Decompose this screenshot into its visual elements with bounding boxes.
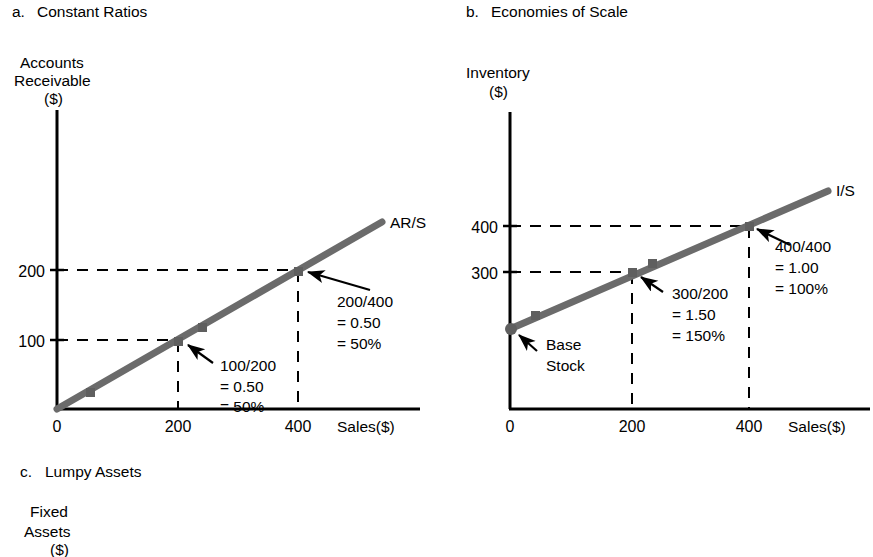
- panel-a-y-axis-title-line2: Receivable: [14, 72, 91, 89]
- panel-b: b. Economies of Scale Inventory ($) 400 …: [466, 3, 870, 435]
- panel-b-annot1-line1: 300/200: [672, 285, 728, 302]
- panel-b-annot1-line2: = 1.50: [672, 306, 716, 323]
- panel-a-annot1-line3: = 50%: [220, 398, 265, 415]
- panel-b-annotation-ratio-at-400: 400/400 = 1.00 = 100%: [775, 238, 831, 297]
- panel-b-y-axis-title-line2: ($): [489, 83, 508, 100]
- panel-a-ylabel-200: 200: [18, 263, 45, 280]
- panel-a-ylabel-100: 100: [18, 333, 45, 350]
- panel-b-marker-4: [745, 222, 754, 231]
- panel-a-annot2-line2: = 0.50: [337, 314, 381, 331]
- panel-a-title: Constant Ratios: [37, 3, 148, 20]
- panel-b-label: b.: [466, 3, 479, 20]
- panel-b-base-stock-line1: Base: [546, 336, 581, 353]
- panel-a: a. Constant Ratios Accounts Receivable (…: [12, 3, 426, 435]
- panel-a-xlabel-200: 200: [165, 418, 192, 435]
- panel-a-annotation-ratio-at-200: 100/200 = 0.50 = 50%: [220, 357, 276, 415]
- panel-b-xlabel-400: 400: [736, 418, 763, 435]
- panel-b-series-label: I/S: [836, 182, 855, 199]
- panel-a-series-label: AR/S: [390, 214, 426, 231]
- panel-a-marker-2: [174, 337, 183, 346]
- panel-b-annot1-line3: = 150%: [672, 327, 725, 344]
- panel-c-y-axis-title-line1: Fixed: [30, 503, 68, 520]
- panel-b-annot2-line1: 400/400: [775, 238, 831, 255]
- panel-a-annot2-line3: = 50%: [337, 335, 382, 352]
- panel-a-annot1-line2: = 0.50: [220, 378, 264, 395]
- panel-a-y-axis-title-line1: Accounts: [20, 54, 84, 71]
- panel-b-base-stock-arrow: [519, 335, 537, 351]
- panel-a-x-axis-title: Sales($): [337, 418, 395, 435]
- panel-b-marker-base: [505, 323, 517, 335]
- panel-b-ylabel-400: 400: [471, 219, 498, 236]
- panel-b-annot1-arrow: [641, 277, 663, 292]
- panel-b-y-axis-title-line1: Inventory: [466, 64, 530, 81]
- panel-b-ylabel-300: 300: [471, 265, 498, 282]
- panel-a-xlabel-400: 400: [285, 418, 312, 435]
- panel-c-label: c.: [20, 463, 32, 480]
- panel-c-title: Lumpy Assets: [45, 463, 142, 480]
- figure-page: a. Constant Ratios Accounts Receivable (…: [0, 0, 873, 557]
- panel-b-annot2-line3: = 100%: [775, 280, 828, 297]
- panel-b-title: Economies of Scale: [491, 3, 628, 20]
- panel-b-marker-1: [531, 311, 540, 320]
- panel-b-marker-2: [628, 268, 637, 277]
- panel-b-annotation-ratio-at-200: 300/200 = 1.50 = 150%: [672, 285, 728, 344]
- panel-b-marker-3: [648, 259, 657, 268]
- three-panel-ratio-figure: a. Constant Ratios Accounts Receivable (…: [0, 0, 873, 557]
- panel-a-marker-1: [86, 388, 95, 397]
- panel-a-annot1-arrow: [188, 345, 213, 363]
- panel-c-y-axis-title-line2: Assets: [24, 523, 71, 540]
- panel-a-label: a.: [12, 3, 25, 20]
- panel-a-marker-3: [198, 323, 207, 332]
- panel-c: c. Lumpy Assets Fixed Assets ($): [20, 463, 142, 557]
- panel-b-xlabel-200: 200: [619, 418, 646, 435]
- panel-a-annotation-ratio-at-400: 200/400 = 0.50 = 50%: [337, 293, 393, 352]
- panel-a-xlabel-0: 0: [53, 418, 62, 435]
- panel-c-y-axis-title-line3: ($): [50, 541, 69, 557]
- panel-b-base-stock-line2: Stock: [546, 357, 585, 374]
- panel-a-annot2-arrow: [308, 272, 370, 290]
- panel-a-y-axis-title-line3: ($): [44, 90, 63, 107]
- panel-a-marker-4: [294, 267, 303, 276]
- panel-a-annot2-line1: 200/400: [337, 293, 393, 310]
- panel-b-xlabel-0: 0: [506, 418, 515, 435]
- panel-b-annot2-line2: = 1.00: [775, 259, 819, 276]
- panel-b-x-axis-title: Sales($): [788, 418, 846, 435]
- panel-a-annot1-line1: 100/200: [220, 357, 276, 374]
- panel-b-annotation-base-stock: Base Stock: [546, 336, 585, 374]
